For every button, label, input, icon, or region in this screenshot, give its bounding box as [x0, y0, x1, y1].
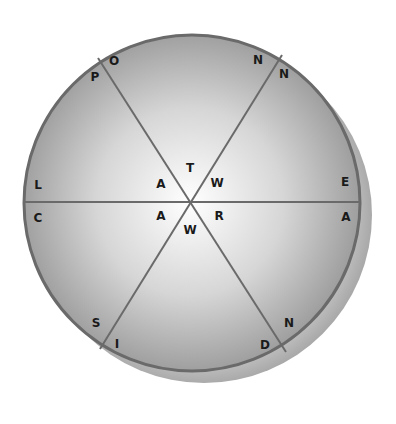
- letter-rim-l: L: [34, 179, 42, 191]
- letter-rim-n-top-right: N: [279, 68, 289, 80]
- letter-center-top: T: [186, 162, 194, 174]
- letter-center-lower-right: R: [214, 210, 223, 222]
- letter-center-bottom: W: [183, 224, 196, 236]
- letter-center-lower-left: A: [156, 210, 165, 222]
- word-wheel: TAWARWOPNNLECASIND: [0, 0, 396, 424]
- letter-rim-s: S: [92, 317, 101, 329]
- letter-rim-d: D: [260, 339, 270, 351]
- letter-center-upper-left: A: [156, 178, 165, 190]
- letter-rim-c: C: [34, 212, 43, 224]
- letter-rim-o: O: [109, 55, 119, 67]
- letter-rim-n-top-left: N: [253, 54, 263, 66]
- letter-rim-i: I: [115, 338, 119, 350]
- letter-rim-p: P: [91, 71, 100, 83]
- letter-rim-a-right: A: [341, 211, 350, 223]
- wheel-graphic: [0, 0, 396, 424]
- letter-rim-n-bottom: N: [284, 317, 294, 329]
- letter-rim-e: E: [341, 176, 349, 188]
- letter-center-upper-right: W: [210, 177, 223, 189]
